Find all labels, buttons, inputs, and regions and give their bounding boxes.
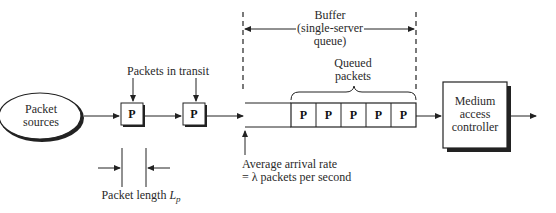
mac-line3: controller: [443, 121, 507, 134]
packet-length-subscript: p: [176, 194, 181, 204]
mac-label: Medium access controller: [443, 95, 507, 134]
queued-packet-label: P: [316, 108, 341, 123]
queued-packet-label: P: [366, 108, 391, 123]
packet-length-label: Packet length Lp: [96, 189, 186, 206]
queued-packet-label: P: [391, 108, 416, 123]
packet-length-text: Packet length: [101, 188, 169, 202]
transit-packet-label: P: [183, 107, 205, 122]
buffer-line3: queue): [290, 35, 370, 48]
transit-packet-label: P: [121, 107, 143, 122]
packets-in-transit-label: Packets in transit: [118, 65, 218, 78]
queued-packets-label: Queued packets: [323, 57, 383, 83]
queued-packet-label: P: [341, 108, 366, 123]
queued-line2: packets: [323, 70, 383, 83]
source-line2: sources: [13, 116, 69, 129]
arrival-line2: = λ packets per second: [242, 171, 351, 184]
arrival-rate-label: Average arrival rate = λ packets per sec…: [242, 158, 351, 184]
buffer-label: Buffer (single-server queue): [290, 9, 370, 48]
queued-packet-label: P: [291, 108, 316, 123]
queued-brace: [291, 86, 416, 100]
packet-sources-label: Packet sources: [13, 103, 69, 129]
